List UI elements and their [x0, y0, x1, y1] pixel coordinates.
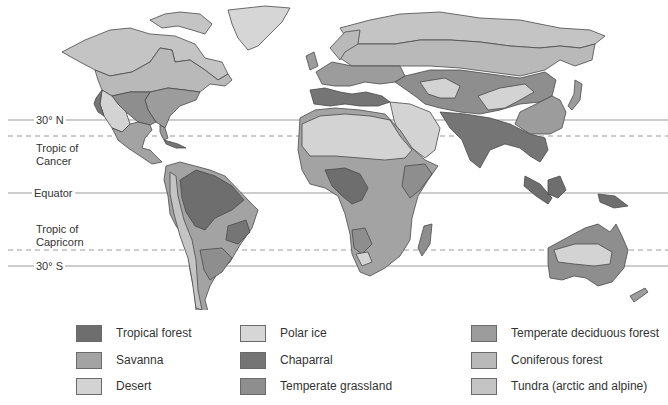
caribbean — [164, 140, 186, 148]
new-zealand — [630, 288, 648, 302]
legend-label: Chaparral — [280, 353, 333, 367]
legend-label: Savanna — [116, 353, 163, 367]
label-30s: 30° S — [34, 260, 65, 272]
madagascar — [418, 224, 432, 256]
label-tropic-cancer-2: Cancer — [34, 155, 73, 167]
legend-desert: Desert — [76, 376, 151, 396]
label-equator: Equator — [32, 187, 75, 199]
label-tropic-capricorn-2: Capricorn — [34, 236, 86, 248]
legend: Tropical forest Savanna Desert Polar ice… — [0, 315, 668, 405]
legend-tundra: Tundra (arctic and alpine) — [471, 376, 647, 396]
swatch-coniferous-forest — [471, 352, 497, 369]
label-tropic-cancer-1: Tropic of — [34, 142, 80, 154]
swatch-temperate-grassland — [240, 378, 266, 395]
label-tropic-capricorn-1: Tropic of — [34, 223, 80, 235]
legend-label: Desert — [116, 379, 151, 393]
swatch-temperate-deciduous-forest — [471, 325, 497, 342]
arctic-islands — [150, 12, 212, 34]
south-america — [164, 162, 258, 310]
world-biome-map — [0, 0, 668, 310]
legend-label: Temperate deciduous forest — [511, 326, 659, 340]
legend-label: Tropical forest — [116, 326, 192, 340]
greenland — [228, 6, 290, 50]
new-guinea — [598, 194, 628, 208]
florida — [160, 125, 168, 140]
legend-label: Polar ice — [280, 326, 327, 340]
legend-savanna: Savanna — [76, 350, 163, 370]
legend-chaparral: Chaparral — [240, 350, 333, 370]
label-30n: 30° N — [34, 114, 66, 126]
legend-temperate-deciduous-forest: Temperate deciduous forest — [471, 323, 659, 343]
legend-temperate-grassland: Temperate grassland — [240, 376, 392, 396]
swatch-chaparral — [240, 352, 266, 369]
swatch-tropical-forest — [76, 325, 102, 342]
uk-ireland — [306, 52, 318, 70]
japan — [568, 80, 582, 110]
australia-desert — [554, 244, 612, 266]
europe-deciduous — [316, 62, 405, 86]
legend-label: Coniferous forest — [511, 353, 602, 367]
swatch-desert — [76, 378, 102, 395]
swatch-tundra — [471, 378, 497, 395]
legend-label: Temperate grassland — [280, 379, 392, 393]
borneo — [548, 176, 566, 198]
north-america — [62, 6, 290, 164]
oceania — [524, 176, 648, 302]
legend-coniferous-forest: Coniferous forest — [471, 350, 602, 370]
mediterranean-chaparral — [310, 88, 390, 106]
swatch-savanna — [76, 352, 102, 369]
swatch-polar-ice — [240, 325, 266, 342]
legend-label: Tundra (arctic and alpine) — [511, 379, 647, 393]
legend-polar-ice: Polar ice — [240, 323, 327, 343]
legend-tropical-forest: Tropical forest — [76, 323, 192, 343]
